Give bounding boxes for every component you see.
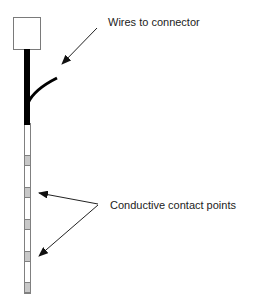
contact-point xyxy=(25,252,31,262)
probe-stripe xyxy=(24,120,31,294)
contact-point xyxy=(25,156,31,166)
connector-box xyxy=(14,18,41,50)
contacts-arrow-upper xyxy=(39,193,98,204)
contact-point xyxy=(25,220,31,230)
wires-arrow xyxy=(62,28,97,64)
contact-point xyxy=(25,283,31,293)
probe-diagram xyxy=(0,0,257,304)
contacts-label: Conductive contact points xyxy=(110,199,236,212)
contacts-arrow-lower xyxy=(39,205,98,256)
contact-point xyxy=(25,188,31,198)
cable xyxy=(24,49,30,124)
branch-wire xyxy=(28,78,57,103)
wires-label: Wires to connector xyxy=(108,16,200,29)
